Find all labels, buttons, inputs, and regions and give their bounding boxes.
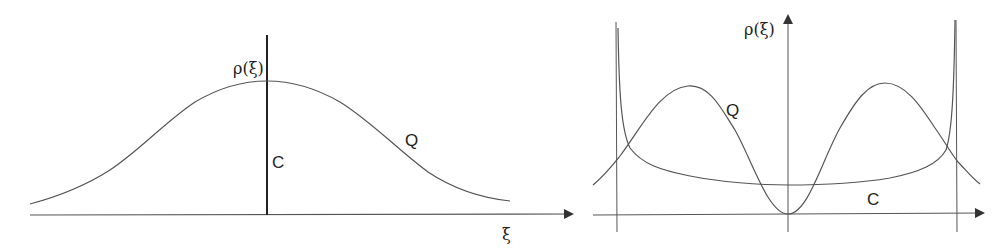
left-x-axis xyxy=(30,214,572,215)
left-x-axis-label: ξ xyxy=(502,225,511,244)
left-curve-label-c: C xyxy=(272,153,284,172)
right-left-boundary-line xyxy=(616,22,617,232)
right-right-boundary-line xyxy=(956,20,957,232)
right-double-hump-curve-q xyxy=(593,83,980,214)
right-y-axis-label: ρ(ξ) xyxy=(744,20,775,39)
right-panel: ρ(ξ) Q C xyxy=(593,16,983,232)
left-curve-label-q: Q xyxy=(405,131,418,150)
right-curve-label-q: Q xyxy=(726,101,739,120)
right-u-curve-c xyxy=(618,20,955,185)
right-curve-label-c: C xyxy=(867,190,879,209)
diagram-canvas: ρ(ξ) ξ C Q ρ(ξ) Q C xyxy=(0,0,1008,251)
left-gaussian-curve-q xyxy=(30,81,510,204)
left-panel: ρ(ξ) ξ C Q xyxy=(30,35,572,244)
left-y-axis-label: ρ(ξ) xyxy=(233,59,264,78)
